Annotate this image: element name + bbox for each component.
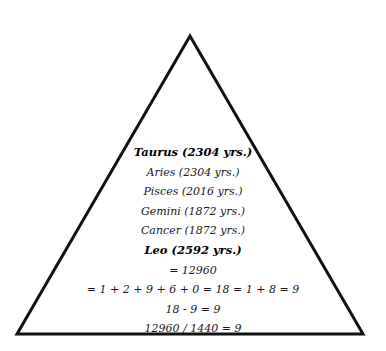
- line-digit-sum: = 1 + 2 + 9 + 6 + 0 = 18 = 1 + 8 = 9: [0, 280, 386, 300]
- line-pisces: Pisces (2016 yrs.): [0, 182, 386, 202]
- line-total: = 12960: [0, 261, 386, 281]
- line-taurus: Taurus (2304 yrs.): [0, 143, 386, 163]
- zodiac-text-block: Taurus (2304 yrs.) Aries (2304 yrs.) Pis…: [0, 143, 386, 339]
- line-subtraction: 18 - 9 = 9: [0, 300, 386, 320]
- line-aries: Aries (2304 yrs.): [0, 163, 386, 183]
- line-cancer: Cancer (1872 yrs.): [0, 221, 386, 241]
- line-leo: Leo (2592 yrs.): [0, 241, 386, 261]
- line-division: 12960 / 1440 = 9: [0, 319, 386, 339]
- line-gemini: Gemini (1872 yrs.): [0, 202, 386, 222]
